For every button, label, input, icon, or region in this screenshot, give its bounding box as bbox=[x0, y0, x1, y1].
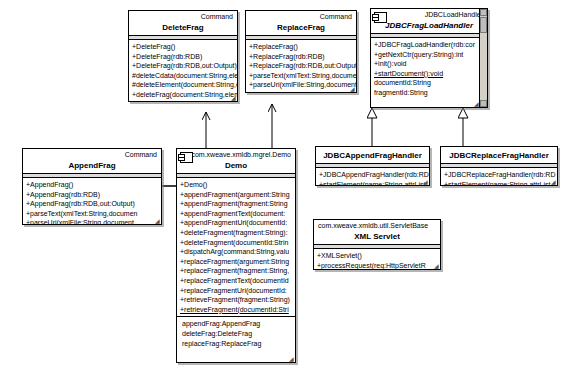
member-list-append-frag: +AppendFrag() +AppendFrag(rdb:RDB) +Appe… bbox=[23, 178, 161, 225]
resize-grip-icon[interactable]: ◢ bbox=[474, 101, 479, 107]
class-name-append-frag: AppendFrag bbox=[23, 160, 161, 173]
resize-grip-icon[interactable]: ◢ bbox=[231, 95, 236, 101]
class-member: +startElement(name:String,attrList bbox=[441, 180, 557, 186]
class-member: +JDBCAppendFragHandler(rdb:RD bbox=[316, 170, 429, 180]
class-method: +appendFragmentText(document: bbox=[177, 209, 295, 219]
class-member: +JDBCReplaceFragHandler(rdb:RD bbox=[441, 170, 557, 180]
class-method: +replaceFragmentText(documentId bbox=[177, 276, 295, 286]
scroll-up-arrow-icon[interactable] bbox=[480, 9, 487, 16]
vertical-scrollbar[interactable] bbox=[479, 9, 487, 107]
uml-class-diagram-canvas: Command DeleteFrag +DeleteFrag() +Delete… bbox=[0, 0, 571, 385]
class-name-demo: Demo bbox=[177, 160, 295, 173]
method-list-demo: +Demo() +appendFragment(argument:String … bbox=[177, 178, 295, 316]
class-member: +DeleteFrag() bbox=[129, 42, 237, 52]
class-member: +deleteFrag(document:String,elem bbox=[129, 90, 237, 100]
member-list-jdbc-replace-frag-handler: +JDBCReplaceFragHandler(rdb:RD +startEle… bbox=[441, 168, 557, 186]
class-box-jdbc-replace-frag-handler[interactable]: JDBCReplaceFragHandler +JDBCReplaceFragH… bbox=[440, 146, 558, 186]
class-method: +dispatchArg(command:String,valu bbox=[177, 247, 295, 257]
class-field: appendFrag:AppendFrag bbox=[177, 319, 295, 329]
class-name-jdbc-load-handler: JDBCFragLoadHandler bbox=[371, 20, 487, 33]
resize-grip-icon[interactable]: ◢ bbox=[434, 263, 439, 269]
resize-grip-icon[interactable]: ◢ bbox=[423, 179, 428, 185]
class-method: +replaceFragment(fragment:String, bbox=[177, 266, 295, 276]
member-list-replace-frag: +ReplaceFrag() +ReplaceFrag(rdb:RDB) +Re… bbox=[246, 40, 356, 92]
resize-grip-icon[interactable]: ◢ bbox=[350, 86, 355, 92]
class-member: +parseText(xmlText:String,documen bbox=[23, 209, 161, 219]
class-member: +processRequest(req:HttpServletR bbox=[314, 261, 440, 270]
member-list-jdbc-load-handler: +JDBCFragLoadHandler(rdb:cor +getNextCtr… bbox=[371, 38, 487, 100]
class-package-demo: com.xweave.xmldb.mgrel.Demo bbox=[177, 149, 295, 160]
class-member: +DeleteFrag(rdb:RDB,out:Output) bbox=[129, 61, 237, 71]
class-box-append-frag[interactable]: Command AppendFrag +AppendFrag() +Append… bbox=[22, 148, 162, 225]
class-stereotype-delete-frag: Command bbox=[129, 11, 237, 22]
class-member: +ReplaceFrag(rdb:RDB,out:Output) bbox=[246, 61, 356, 71]
class-member: +JDBCFragLoadHandler(rdb:cor bbox=[371, 40, 479, 50]
resize-grip-icon[interactable]: ◢ bbox=[289, 356, 294, 362]
resize-grip-icon[interactable]: ◢ bbox=[155, 218, 160, 224]
class-name-delete-frag: DeleteFrag bbox=[129, 22, 237, 35]
member-list-xml-servlet: +XMLServlet() +processRequest(req:HttpSe… bbox=[314, 249, 440, 270]
class-member: #deleteCdata(document:String,elem bbox=[129, 71, 237, 81]
resize-grip-icon[interactable]: ◢ bbox=[551, 179, 556, 185]
class-method: +deleteFragment(fragment:String): bbox=[177, 228, 295, 238]
class-method: +appendFragment(argument:String bbox=[177, 190, 295, 200]
class-member: +getNextCtr(query:String):int bbox=[371, 50, 479, 60]
scrollbar-thumb[interactable] bbox=[480, 17, 487, 33]
class-member: +startElement(name:String,attrList bbox=[316, 180, 429, 186]
class-member: documentId:String bbox=[371, 78, 479, 88]
class-box-replace-frag[interactable]: Command ReplaceFrag +ReplaceFrag() +Repl… bbox=[245, 10, 357, 93]
class-member: +DeleteFrag(rdb:RDB) bbox=[129, 52, 237, 62]
class-stereotype-replace-frag: Command bbox=[246, 11, 356, 22]
class-method: +appendFragmentUri(documentId: bbox=[177, 218, 295, 228]
class-member: +ReplaceFrag() bbox=[246, 42, 356, 52]
class-box-demo[interactable]: com.xweave.xmldb.mgrel.Demo Demo +Demo()… bbox=[176, 148, 296, 363]
class-stereotype-jdbc-load-handler: JDBCLoadHandler bbox=[371, 9, 487, 20]
class-field: deleteFrag:DeleteFrag bbox=[177, 329, 295, 339]
field-list-demo: appendFrag:AppendFrag deleteFrag:DeleteF… bbox=[177, 317, 295, 350]
class-method-static: +retrieveFragment(documentId:Stri bbox=[177, 305, 295, 315]
class-member: fragmentId:String bbox=[371, 88, 479, 98]
class-name-jdbc-replace-frag-handler: JDBCReplaceFragHandler bbox=[441, 147, 557, 163]
class-member: +AppendFrag(rdb:RDB,out:Output) bbox=[23, 199, 161, 209]
class-name-jdbc-append-frag-handler: JDBCAppendFragHandler bbox=[316, 147, 429, 163]
class-member: +XMLServlet() bbox=[314, 251, 440, 261]
scroll-down-arrow-icon[interactable] bbox=[480, 100, 487, 107]
class-method: +retrieveFragment(fragment:String) bbox=[177, 295, 295, 305]
class-member-static: +startDocument():void bbox=[371, 69, 479, 79]
class-name-replace-frag: ReplaceFrag bbox=[246, 22, 356, 35]
class-member: +AppendFrag(rdb:RDB) bbox=[23, 190, 161, 200]
component-icon bbox=[374, 12, 387, 23]
class-package-xml-servlet: com.xweave.xmldb.util.ServletBase bbox=[314, 220, 440, 231]
class-member: +parseUri(xmlFile:String,document bbox=[23, 218, 161, 225]
member-list-delete-frag: +DeleteFrag() +DeleteFrag(rdb:RDB) +Dele… bbox=[129, 40, 237, 102]
class-stereotype-append-frag: Command bbox=[23, 149, 161, 160]
class-method: +appendFragment(fragment:String bbox=[177, 199, 295, 209]
class-member: +ReplaceFrag(rdb:RDB) bbox=[246, 52, 356, 62]
class-method: +deleteFragment(documentId:Strin bbox=[177, 238, 295, 248]
class-member: +init():void bbox=[371, 59, 479, 69]
class-member: +parseUri(xmlFile:String,document bbox=[246, 80, 356, 90]
class-member: #deleteElement(document:String,e bbox=[129, 80, 237, 90]
component-icon bbox=[180, 152, 193, 163]
class-member: +AppendFrag() bbox=[23, 180, 161, 190]
member-list-jdbc-append-frag-handler: +JDBCAppendFragHandler(rdb:RD +startElem… bbox=[316, 168, 429, 186]
class-method: +replaceFragment(argument:String bbox=[177, 257, 295, 267]
class-method: +replaceFragmentUri(documentId: bbox=[177, 286, 295, 296]
class-name-xml-servlet: XML Servlet bbox=[314, 231, 440, 244]
class-box-xml-servlet[interactable]: com.xweave.xmldb.util.ServletBase XML Se… bbox=[313, 219, 441, 270]
class-box-jdbc-load-handler[interactable]: JDBCLoadHandler JDBCFragLoadHandler +JDB… bbox=[370, 8, 488, 108]
class-member: +parseText(xmlText:String,documen bbox=[246, 71, 356, 81]
class-box-jdbc-append-frag-handler[interactable]: JDBCAppendFragHandler +JDBCAppendFragHan… bbox=[315, 146, 430, 186]
class-method: +Demo() bbox=[177, 180, 295, 190]
class-field: replaceFrag:ReplaceFrag bbox=[177, 339, 295, 349]
class-box-delete-frag[interactable]: Command DeleteFrag +DeleteFrag() +Delete… bbox=[128, 10, 238, 102]
